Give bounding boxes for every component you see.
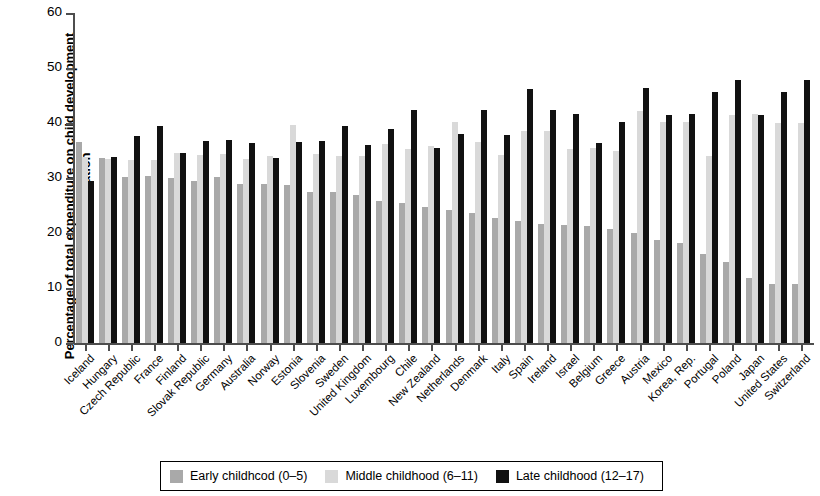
bar-late [342,126,348,343]
legend-item-middle: Middle childhood (6–11) [325,469,478,483]
x-tick-mark [223,343,225,351]
bar-group [446,13,467,343]
bar-group [376,13,397,343]
bar-group [330,13,351,343]
bar-late [203,141,209,343]
bar-group [654,13,675,343]
bar-late [804,80,810,343]
bar-late [273,158,279,343]
bar-chart: Percentage of total expenditure on child… [0,0,820,496]
bar-group [214,13,235,343]
y-tick-label: 10 [47,279,62,294]
bar-late [550,110,556,343]
legend-item-early: Early childhcod (0–5) [170,469,307,483]
x-tick-mark [570,343,572,351]
y-tick-mark [66,68,73,70]
x-tick-mark [200,343,202,351]
x-tick-mark [339,343,341,351]
bar-late [365,145,371,343]
bar-late [157,126,163,343]
x-tick-mark [709,343,711,351]
bar-group [538,13,559,343]
x-tick-mark [108,343,110,351]
bar-late [296,142,302,343]
legend-label-middle: Middle childhood (6–11) [345,469,478,483]
y-tick-mark [66,288,73,290]
x-tick-mark [524,343,526,351]
x-tick-mark [85,343,87,351]
y-tick-label: 40 [47,114,62,129]
bar-late [735,80,741,343]
y-tick-label: 60 [47,4,62,19]
bar-late [504,135,510,343]
bar-late [712,92,718,343]
bar-group [422,13,443,343]
y-tick-mark [66,233,73,235]
legend-item-late: Late childhood (12–17) [496,469,644,483]
bar-group [492,13,513,343]
bar-late [134,136,140,343]
bar-late [434,148,440,343]
bar-late [180,153,186,343]
bar-group [723,13,744,343]
legend-swatch-middle [325,470,338,483]
x-tick-mark [501,343,503,351]
x-tick-mark [455,343,457,351]
bar-group [353,13,374,343]
bar-late [596,143,602,343]
bar-group [515,13,536,343]
bar-late [781,92,787,343]
bar-late [527,89,533,343]
bar-group [122,13,143,343]
y-tick-mark [66,343,73,345]
x-tick-mark [778,343,780,351]
y-tick-label: 0 [54,334,62,349]
x-tick-mark [246,343,248,351]
x-tick-mark [385,343,387,351]
legend-swatch-early [170,470,183,483]
y-tick-mark [66,13,73,15]
bar-group [399,13,420,343]
bar-late [666,115,672,343]
x-tick-mark [801,343,803,351]
bar-group [261,13,282,343]
x-tick-mark [362,343,364,351]
bar-group [168,13,189,343]
bar-group [307,13,328,343]
x-tick-mark [686,343,688,351]
legend-label-late: Late childhood (12–17) [516,469,644,483]
x-tick-mark [131,343,133,351]
y-tick-mark [66,123,73,125]
bar-late [689,114,695,343]
bar-group [746,13,767,343]
bar-late [619,122,625,343]
x-tick-mark [431,343,433,351]
x-tick-mark [593,343,595,351]
x-tick-mark [755,343,757,351]
bar-late [411,110,417,343]
bar-late [88,181,94,343]
legend-swatch-late [496,470,509,483]
bar-late [319,141,325,343]
bar-late [226,140,232,344]
bar-group [145,13,166,343]
bar-group [677,13,698,343]
bar-group [191,13,212,343]
x-tick-mark [293,343,295,351]
x-tick-mark [478,343,480,351]
x-tick-mark [663,343,665,351]
bar-late [249,143,255,343]
x-tick-mark [616,343,618,351]
bar-group [631,13,652,343]
bar-group [700,13,721,343]
y-tick-label: 50 [47,59,62,74]
bar-group [99,13,120,343]
bar-late [481,110,487,343]
x-tick-mark [640,343,642,351]
bar-group [584,13,605,343]
bar-late [388,129,394,343]
x-axis-line [74,343,814,345]
bar-late [458,134,464,343]
bar-group [769,13,790,343]
x-tick-mark [270,343,272,351]
